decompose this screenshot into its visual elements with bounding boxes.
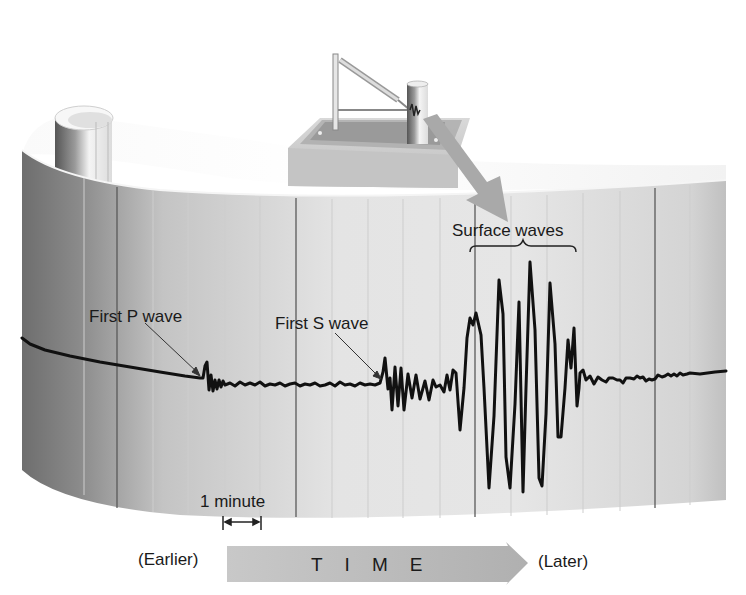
seismograph-instrument <box>288 54 470 188</box>
first-s-wave-label: First S wave <box>275 315 369 332</box>
one-minute-scale-bar <box>223 516 261 530</box>
time-label: TIME <box>311 555 444 574</box>
earlier-label: (Earlier) <box>138 551 198 568</box>
later-label: (Later) <box>538 553 588 570</box>
seismogram-diagram: First P wave First S wave Surface waves … <box>0 0 746 595</box>
surface-waves-label: Surface waves <box>452 222 564 239</box>
first-p-wave-label: First P wave <box>89 308 182 325</box>
one-minute-label: 1 minute <box>200 493 265 510</box>
